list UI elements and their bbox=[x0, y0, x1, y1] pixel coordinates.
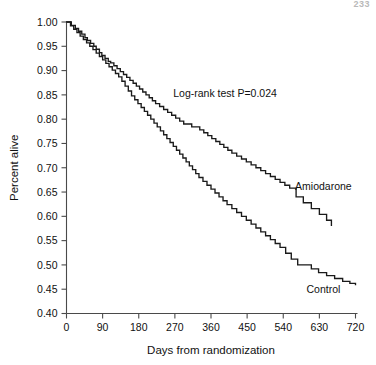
y-tick-label: 0.65 bbox=[37, 186, 58, 198]
annotation-group: Log-rank test P=0.024 bbox=[173, 87, 277, 99]
x-tick-label: 630 bbox=[311, 321, 329, 333]
series-label-amiodarone: Amiodarone bbox=[295, 180, 352, 192]
x-tick-group: 090180270360450540630720 bbox=[64, 314, 365, 334]
y-tick-label: 0.90 bbox=[37, 64, 58, 76]
x-tick-label: 90 bbox=[97, 321, 109, 333]
y-tick-label: 0.55 bbox=[37, 234, 58, 246]
series-curve-amiodarone bbox=[67, 22, 332, 226]
y-tick-label: 0.40 bbox=[37, 307, 58, 319]
x-tick-label: 180 bbox=[130, 321, 148, 333]
y-tick-label: 0.75 bbox=[37, 137, 58, 149]
x-tick-label: 540 bbox=[274, 321, 292, 333]
y-tick-label: 0.85 bbox=[37, 89, 58, 101]
survival-chart: 0.400.450.500.550.600.650.700.750.800.85… bbox=[0, 0, 376, 365]
y-tick-label: 1.00 bbox=[37, 16, 58, 28]
x-tick-label: 720 bbox=[347, 321, 365, 333]
y-axis-title: Percent alive bbox=[8, 135, 20, 201]
x-tick-label: 360 bbox=[202, 321, 220, 333]
y-tick-group: 0.400.450.500.550.600.650.700.750.800.85… bbox=[37, 16, 66, 320]
curve-group bbox=[67, 22, 356, 285]
x-axis-title: Days from randomization bbox=[147, 344, 275, 356]
x-tick-label: 270 bbox=[166, 321, 184, 333]
y-tick-label: 0.50 bbox=[37, 259, 58, 271]
x-tick-label: 450 bbox=[238, 321, 256, 333]
x-tick-label: 0 bbox=[64, 321, 70, 333]
logrank-annotation: Log-rank test P=0.024 bbox=[173, 87, 277, 99]
y-tick-label: 0.45 bbox=[37, 283, 58, 295]
x-axis: 090180270360450540630720 bbox=[64, 314, 365, 334]
y-tick-label: 0.95 bbox=[37, 40, 58, 52]
y-axis: 0.400.450.500.550.600.650.700.750.800.85… bbox=[37, 16, 66, 320]
series-label-control: Control bbox=[306, 283, 340, 295]
y-tick-label: 0.60 bbox=[37, 210, 58, 222]
y-tick-label: 0.80 bbox=[37, 113, 58, 125]
y-tick-label: 0.70 bbox=[37, 162, 58, 174]
